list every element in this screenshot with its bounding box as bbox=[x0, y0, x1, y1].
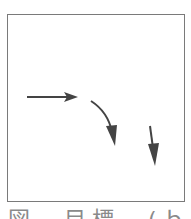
arrow-diagram bbox=[0, 0, 191, 219]
straight-right-arrow-icon bbox=[27, 92, 78, 102]
curved-down-arrow-icon bbox=[91, 101, 117, 146]
short-down-arrow-icon bbox=[148, 126, 159, 166]
figure-caption: 図 目標 (ｂ bbox=[8, 205, 188, 219]
